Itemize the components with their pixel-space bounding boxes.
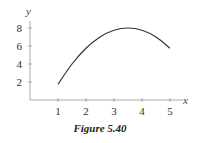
x-tick-label: 5 — [167, 105, 173, 117]
ticks: 123452468 — [17, 22, 174, 117]
x-axis-title: x — [182, 94, 188, 106]
y-tick-label: 8 — [17, 22, 23, 34]
x-tick-label: 1 — [55, 105, 61, 117]
x-tick-label: 2 — [83, 105, 89, 117]
x-tick-label: 4 — [139, 105, 145, 117]
y-tick-label: 4 — [17, 58, 23, 70]
y-axis-title: y — [25, 5, 31, 17]
figure-caption: Figure 5.40 — [72, 122, 127, 134]
series — [58, 28, 170, 84]
y-tick-label: 6 — [17, 40, 23, 52]
y-tick-label: 2 — [17, 76, 23, 88]
x-tick-label: 3 — [111, 105, 117, 117]
chart: 123452468 y x Figure 5.40 — [0, 0, 200, 143]
series-line-curve — [58, 28, 170, 84]
